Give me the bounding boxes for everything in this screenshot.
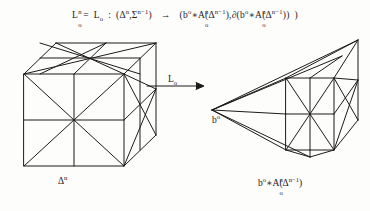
right-caption-delta: Δn−1 (283, 178, 299, 188)
cone-svg (206, 34, 366, 169)
formula-delta-3: Δn−1 (266, 10, 283, 20)
formula-star-2: ∗ (248, 9, 255, 20)
formula-A-2-base: A (255, 10, 262, 20)
formula-A-1-sub: o (205, 21, 209, 28)
cone-apex-label: bo (212, 115, 220, 125)
formula-delta-2-sup: n−1 (215, 8, 226, 15)
triangulated-cone-figure (206, 34, 366, 169)
cone-apex-label-sup: o (217, 113, 220, 120)
formula-delta-2: Δn−1 (208, 10, 225, 20)
formula-equals: = (83, 10, 89, 20)
formula-sigma: Σn−1 (132, 10, 149, 20)
left-figure-caption-sup: n (64, 174, 67, 181)
formula-mid: Lo (94, 10, 104, 20)
formula-close-paren-4: ) (286, 10, 289, 20)
right-caption-delta-sup: n−1 (289, 176, 299, 183)
figure-canvas: Lno=Lo:(Δn,Σn−1)→(bo∗Ano(Δn−1),∂(bo∗Ano(… (0, 0, 370, 211)
triangulated-cube-figure (8, 34, 158, 169)
formula-A-1-base: A (198, 10, 205, 20)
formula-A-2-sup: n (262, 8, 266, 15)
right-caption-close-paren: ) (299, 178, 302, 188)
map-arrow-label: Lo (168, 74, 177, 84)
formula-A-1: Ano (198, 10, 205, 20)
formula-A-2: Ano (255, 10, 262, 20)
formula-b-2: bo (240, 10, 248, 20)
formula-line: Lno=Lo:(Δn,Σn−1)→(bo∗Ano(Δn−1),∂(bo∗Ano(… (0, 9, 370, 20)
left-figure-caption: Δn (58, 176, 67, 186)
formula-close-paren-1: ) (148, 10, 151, 20)
right-caption-A-sup: n (279, 176, 282, 183)
formula-b-1: bo (183, 10, 191, 20)
formula-delta-3-sup: n−1 (272, 8, 283, 15)
formula-colon: : (108, 10, 111, 20)
formula-lhs-sub: o (78, 21, 82, 28)
formula-A-2-sub: o (262, 21, 266, 28)
formula-delta-1: Δn (119, 10, 129, 20)
right-caption-A-sub: o (279, 189, 282, 196)
right-figure-caption: bo∗Ano(Δn−1) (258, 177, 302, 188)
formula-star-1: ∗ (191, 9, 198, 20)
formula-lhs: Lno (72, 10, 78, 20)
formula-sigma-sup: n−1 (138, 8, 149, 15)
map-arrow-label-sub: o (174, 79, 177, 86)
cube-svg (8, 34, 158, 169)
formula-mid-sub: o (100, 15, 104, 22)
formula-arrow: → (161, 10, 171, 20)
formula-A-1-sup: n (205, 8, 209, 15)
formula-lhs-sup: n (78, 8, 82, 15)
formula-close-paren-2: ) (295, 10, 298, 20)
